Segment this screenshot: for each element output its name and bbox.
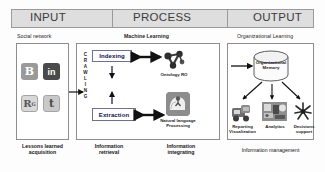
twitter-glyph: t <box>49 97 54 110</box>
subtitle-input: Social network <box>17 33 51 39</box>
header-label-process: PROCESS <box>133 11 191 23</box>
process-caption-right: Information integrating <box>148 143 214 156</box>
crawling-letter-g: G <box>82 94 89 100</box>
researchgate-icon[interactable]: RG <box>21 95 38 112</box>
organizational-memory-label: Organizational Memory <box>251 60 291 71</box>
output-caption: Information management <box>227 147 314 153</box>
linkedin-glyph: in <box>48 67 56 77</box>
om-label-line2: Memory <box>251 65 291 70</box>
input-panel <box>16 43 69 140</box>
header-label-output: OUTPUT <box>253 11 302 23</box>
indexing-box[interactable]: Indexing <box>92 50 132 62</box>
decisions-support-label: Decisions support <box>291 124 317 134</box>
researchgate-superscript: G <box>32 101 36 107</box>
reporting-visualization-item[interactable] <box>231 103 253 122</box>
process-caption-right-line2: integrating <box>148 149 214 155</box>
analytics-label: Analytics <box>261 124 289 129</box>
nlp-label: Natural language Processing <box>152 118 204 128</box>
analytics-item[interactable] <box>262 102 287 121</box>
nlp-label-line2: Processing <box>152 123 204 128</box>
subtitle-output: Organizational Learning <box>237 33 293 39</box>
extraction-box[interactable]: Extraction <box>92 108 136 121</box>
crawling-label: C R A W L I N G <box>82 52 89 100</box>
decisions-label-line2: support <box>291 129 317 134</box>
process-caption-left-line2: retrieval <box>76 149 142 155</box>
ontology-graph-icon[interactable] <box>163 50 185 70</box>
header-separator-1 <box>112 10 113 27</box>
process-caption-left: Information retrieval <box>76 143 142 156</box>
twitter-icon[interactable]: t <box>43 95 60 112</box>
blogger-glyph: B <box>25 65 34 78</box>
linkedin-icon[interactable]: in <box>43 63 60 80</box>
reporting-visualization-label: Reporting Visualization <box>228 124 257 134</box>
header-label-input: INPUT <box>30 11 66 23</box>
decisions-support-item[interactable] <box>293 102 313 121</box>
researchgate-glyph: R <box>23 98 31 109</box>
analytics-label-line1: Analytics <box>261 124 289 129</box>
natural-language-processing-icon[interactable] <box>166 92 190 116</box>
input-caption-line2: acquisition <box>16 149 69 155</box>
reporting-label-line2: Visualization <box>228 129 257 134</box>
ontology-label: Ontology RO <box>152 72 196 77</box>
diagram-root: INPUT PROCESS OUTPUT Social network Mach… <box>0 0 325 172</box>
subtitle-process: Machine Learning <box>124 33 169 39</box>
blogger-icon[interactable]: B <box>21 63 38 80</box>
input-caption: Lessons learned acquisition <box>16 143 69 156</box>
header-separator-2 <box>227 10 228 27</box>
